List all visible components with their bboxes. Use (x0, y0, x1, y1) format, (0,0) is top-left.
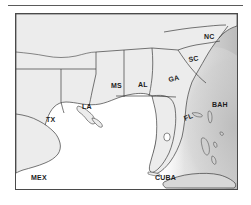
figure-page: TX LA MS AL GA SC NC FL MEX CUBA BAH (0, 0, 251, 205)
map-label-cuba: CUBA (155, 174, 176, 181)
map-frame: TX LA MS AL GA SC NC FL MEX CUBA BAH (15, 13, 238, 190)
map-label-bah: BAH (212, 101, 228, 108)
map-label-al: AL (138, 81, 148, 88)
map-label-mex: MEX (31, 174, 47, 181)
map-label-nc: NC (204, 33, 215, 40)
map-label-ms: MS (111, 82, 122, 89)
map-label-la: LA (82, 103, 92, 110)
map-label-tx: TX (46, 116, 55, 123)
map-graphic: TX LA MS AL GA SC NC FL MEX CUBA BAH (16, 14, 237, 189)
horizontal-rule (8, 5, 243, 6)
bahamas-island-6 (220, 132, 223, 135)
lake-okeechobee (164, 133, 170, 141)
